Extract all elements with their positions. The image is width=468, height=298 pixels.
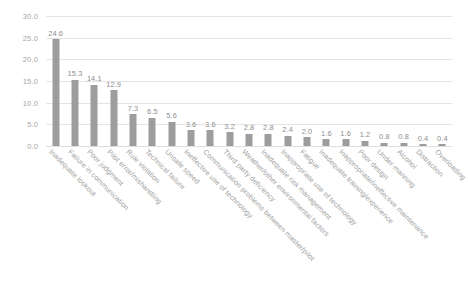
bar: [91, 85, 98, 146]
bar-slot: 24.6: [46, 16, 65, 146]
bar-value-label: 14.1: [87, 74, 102, 83]
bar-value-label: 0.8: [379, 132, 390, 141]
bar: [110, 90, 117, 146]
bar-value-label: 2.8: [244, 123, 255, 132]
bar-slot: 15.3: [65, 16, 84, 146]
y-axis-tick-label: 25.0: [23, 33, 38, 42]
bar: [168, 122, 175, 146]
bar: [342, 139, 349, 146]
bar: [419, 144, 426, 146]
bar-value-label: 24.6: [48, 29, 63, 38]
bar: [303, 137, 310, 146]
bar-slot: 1.2: [355, 16, 374, 146]
y-axis: 0.05.010.015.020.025.030.0: [0, 16, 42, 146]
bar: [245, 134, 252, 146]
bar-slot: 14.1: [85, 16, 104, 146]
bar: [361, 141, 368, 146]
y-axis-tick-label: 20.0: [23, 55, 38, 64]
bar-value-label: 1.6: [321, 129, 332, 138]
bar: [207, 130, 214, 146]
bar: [284, 136, 291, 146]
bar-value-label: 2.0: [302, 127, 313, 136]
bar-value-label: 3.2: [224, 122, 235, 131]
bar-slot: 3.6: [201, 16, 220, 146]
bar-value-label: 15.3: [68, 69, 83, 78]
bar-value-label: 2.4: [282, 125, 293, 134]
bar-value-label: 7.3: [128, 104, 139, 113]
bar-slot: 2.4: [278, 16, 297, 146]
bar-value-label: 3.6: [186, 120, 197, 129]
bar-slot: 12.9: [104, 16, 123, 146]
bar-slot: 6.5: [143, 16, 162, 146]
bar-slot: 0.4: [433, 16, 452, 146]
bar-slot: 2.8: [239, 16, 258, 146]
bar-value-label: 1.2: [360, 130, 371, 139]
bar-slot: 7.3: [123, 16, 142, 146]
bar-value-label: 3.6: [205, 120, 216, 129]
bar-value-label: 6.5: [147, 107, 158, 116]
gridline: [46, 146, 452, 147]
bar-value-label: 12.9: [106, 80, 121, 89]
bar-slot: 0.4: [413, 16, 432, 146]
bar: [323, 139, 330, 146]
bar-value-label: 0.4: [418, 134, 429, 143]
bar: [226, 132, 233, 146]
bar: [71, 80, 78, 146]
bar: [149, 118, 156, 146]
bar-value-label: 5.6: [166, 111, 177, 120]
bar: [265, 134, 272, 146]
bar-value-label: 1.6: [340, 129, 351, 138]
y-axis-tick-label: 15.0: [23, 77, 38, 86]
bar-slot: 0.8: [375, 16, 394, 146]
plot-area: 24.615.314.112.97.36.55.63.63.63.22.82.8…: [46, 16, 452, 146]
bar-series: 24.615.314.112.97.36.55.63.63.63.22.82.8…: [46, 16, 452, 146]
bar: [129, 114, 136, 146]
bar-value-label: 0.4: [437, 134, 448, 143]
bar: [187, 130, 194, 146]
bar: [400, 143, 407, 146]
y-axis-tick-label: 30.0: [23, 12, 38, 21]
bar-slot: 0.8: [394, 16, 413, 146]
bar-value-label: 2.8: [263, 123, 274, 132]
y-axis-tick-label: 10.0: [23, 98, 38, 107]
bar: [381, 143, 388, 146]
bar-value-label: 0.8: [398, 132, 409, 141]
bar-slot: 2.8: [259, 16, 278, 146]
bar-slot: 1.6: [317, 16, 336, 146]
bar-slot: 5.6: [162, 16, 181, 146]
y-axis-tick-label: 0.0: [27, 142, 38, 151]
bar-slot: 3.6: [181, 16, 200, 146]
x-axis-labels: Inadequate lookoutFailure in communicati…: [46, 148, 452, 298]
bar: [52, 39, 59, 146]
bar-slot: 2.0: [297, 16, 316, 146]
bar: [439, 144, 446, 146]
bar-slot: 3.2: [220, 16, 239, 146]
bar-slot: 1.6: [336, 16, 355, 146]
y-axis-tick-label: 5.0: [27, 120, 38, 129]
